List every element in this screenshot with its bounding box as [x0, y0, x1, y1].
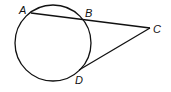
label-d: D	[75, 75, 83, 86]
label-a: A	[19, 5, 26, 16]
label-c: C	[153, 24, 161, 35]
diagram: A B C D	[0, 0, 171, 92]
label-b: B	[85, 8, 92, 19]
